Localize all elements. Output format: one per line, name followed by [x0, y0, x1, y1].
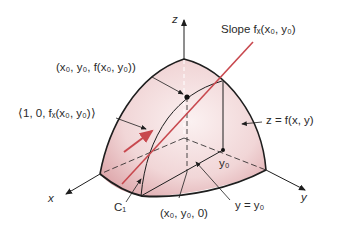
slope-label: Slope fₓ(x₀, y₀) [221, 24, 296, 36]
point-on-surface [184, 94, 189, 99]
point-label: (x₀, y₀, f(x₀, y₀)) [56, 62, 136, 74]
x-axis-label: x [48, 193, 54, 205]
surface-patch [100, 59, 266, 196]
tangent-vector-label: ⟨1, 0, fₓ(x₀, y₀)⟩ [18, 108, 96, 120]
x-axis [66, 174, 100, 194]
y0-label: y₀ [219, 158, 230, 170]
base-point-label: (x₀, y₀, 0) [160, 208, 208, 220]
y-axis-label: y [301, 192, 307, 204]
curve-c1-label: C₁ [114, 202, 126, 214]
point-y0 [221, 148, 225, 152]
plane-label: y = y₀ [235, 200, 264, 212]
z-axis-label: z [172, 14, 178, 26]
surface-label: z = f(x, y) [266, 115, 314, 127]
y-axis [266, 170, 305, 190]
